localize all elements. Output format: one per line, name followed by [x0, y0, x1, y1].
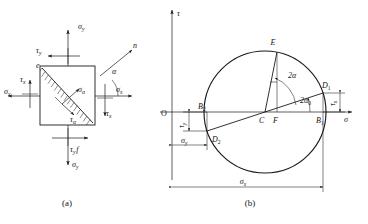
sigma-x-left-label: σx	[4, 87, 11, 97]
inclined-plane-group	[38, 68, 93, 125]
sigma-alpha-arrow	[62, 89, 79, 104]
caption-b: (b)	[245, 198, 256, 208]
two-alpha-label: 2α	[288, 71, 297, 80]
point-f-label: F	[272, 116, 278, 125]
normal-n-label: n	[133, 41, 137, 50]
figure-svg: σy σy τy τyf σx σx τx τx	[0, 0, 368, 224]
tau-x-dim-label: τx	[328, 100, 338, 106]
two-alpha-arc	[275, 78, 296, 105]
tau-x-left-label: τx	[20, 75, 26, 85]
tau-x-right-label: τx	[106, 109, 112, 119]
point-d1-label: D1	[321, 81, 331, 91]
angle-alpha-label: α	[112, 67, 117, 76]
point-b1-label: B1	[316, 116, 324, 126]
figure-root: σy σy τy τyf σx σx τx τx	[0, 0, 368, 224]
tau-y-dim-label: τy	[177, 122, 187, 128]
sigma-y-top-label: σy	[78, 22, 85, 32]
tau-alpha-label: τα	[70, 115, 77, 125]
tau-axis-label: τ	[177, 9, 181, 18]
point-d2-label: D2	[211, 135, 221, 145]
tau-y-bottom-label: τyf	[70, 145, 80, 155]
alpha-axes-tick	[55, 97, 62, 104]
tau-y-top-label: τy	[36, 46, 42, 56]
sigma-x-dim-label: σx	[240, 177, 247, 187]
vertex-e-label: e	[36, 61, 40, 70]
sigma-x-right-label: σx	[116, 85, 123, 95]
panel-a-group: σy σy τy τyf σx σx τx τx	[4, 22, 137, 208]
origin-label: O	[161, 109, 167, 118]
tau-alpha-arrow	[62, 104, 74, 115]
sigma-y-bottom-label: σy	[72, 160, 79, 170]
sigma-alpha-label: σα	[78, 85, 86, 95]
caption-a: (a)	[62, 198, 72, 208]
sigma-axis-label: σ	[344, 115, 349, 124]
panel-b-group: τ σ O τx	[160, 9, 352, 208]
point-e-label: E	[270, 38, 276, 47]
hatch-group	[38, 68, 90, 125]
sigma-y-dim-label: σy	[181, 136, 188, 146]
point-c-label: C	[259, 116, 265, 125]
